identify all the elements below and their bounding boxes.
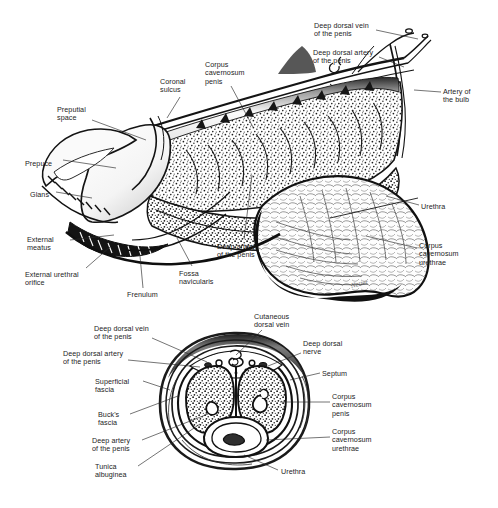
label-coronal-sulcus: Coronal sulcus xyxy=(160,78,186,95)
label-external-urethral-orifice: External urethral orifice xyxy=(25,271,79,288)
label-xs-corpus-cavernosum-urethrae: Corpus cavernosum urethrae xyxy=(332,428,372,453)
label-septum: Septum xyxy=(322,370,347,378)
label-xs-deep-dorsal-vein-of-the-penis: Deep dorsal vein of the penis xyxy=(94,325,149,342)
label-fossa-navicularis: Fossa navicularis xyxy=(179,270,214,287)
label-bucks-fascia: Buck's fascia xyxy=(98,411,119,428)
label-xs-corpus-cavernosum-penis: Corpus cavernosum penis xyxy=(332,393,372,418)
label-corpus-cavernosum-urethrae: Corpus cavernosum urethrae xyxy=(419,242,459,267)
label-deep-artery-of-the-penis: Deep artery of the penis xyxy=(217,243,255,260)
label-xs-deep-artery-of-the-penis: Deep artery of the penis xyxy=(92,437,130,454)
label-external-meatus: External meatus xyxy=(27,236,54,253)
label-artery-of-the-bulb: Artery of the bulb xyxy=(443,88,471,105)
label-superficial-fascia: Superficial fascia xyxy=(95,378,129,395)
leader-deep-dorsal-vein xyxy=(376,30,418,39)
deep-dorsal-artery-lumen-right xyxy=(249,360,255,366)
label-deep-dorsal-artery-of-the-penis: Deep dorsal artery of the penis xyxy=(313,49,373,66)
deep-artery-of-the-penis-left xyxy=(206,402,218,415)
label-corpus-cavernosum-penis: Corpus cavernosum penis xyxy=(205,61,245,86)
label-glans: Glans xyxy=(30,191,49,199)
label-xs-urethra: Urethra xyxy=(281,468,305,476)
label-deep-dorsal-vein-of-the-penis: Deep dorsal vein of the penis xyxy=(314,22,369,39)
label-urethra: Urethra xyxy=(421,203,445,211)
leader-fossa-navicularis xyxy=(177,238,192,266)
label-xs-deep-dorsal-artery-of-the-penis: Deep dorsal artery of the penis xyxy=(63,350,123,367)
label-preputial-space: Preputial space xyxy=(57,106,86,123)
leader-frenulum xyxy=(140,256,143,288)
leader-artery-of-bulb xyxy=(414,90,441,92)
label-tunica-albuginea: Tunica albuginea xyxy=(95,463,127,480)
label-frenulum: Frenulum xyxy=(127,291,158,299)
label-prepuce: Prepuce xyxy=(25,160,52,168)
label-deep-dorsal-nerve: Deep dorsal nerve xyxy=(303,340,342,357)
leader-coronal-sulcus xyxy=(167,97,180,118)
anatomical-figure: Deep dorsal vein of the penis Deep dorsa… xyxy=(0,0,498,508)
dorsal-hair-shading xyxy=(278,46,316,74)
label-cutaneous-dorsal-vein: Cutaneous dorsal vein xyxy=(254,313,289,330)
cross-section-drawing xyxy=(128,330,330,470)
